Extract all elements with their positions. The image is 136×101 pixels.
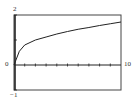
- plot-frame: [14, 15, 121, 90]
- plot-area: [0, 0, 136, 101]
- function-curve: [14, 22, 121, 65]
